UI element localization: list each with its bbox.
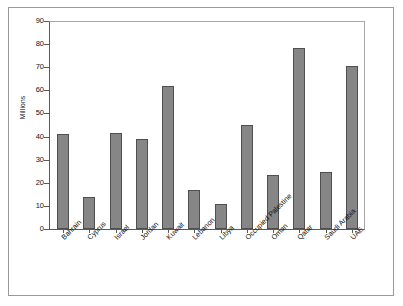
bar-libya[interactable] bbox=[215, 204, 227, 229]
y-axis-tick bbox=[44, 67, 49, 68]
bar-slot bbox=[208, 21, 234, 229]
x-axis-tick bbox=[116, 229, 117, 233]
y-axis-tick-label: 80 bbox=[4, 40, 44, 48]
x-axis-tick bbox=[63, 229, 64, 233]
bars-layer bbox=[50, 21, 365, 229]
bar-slot bbox=[313, 21, 339, 229]
y-axis-tick-label: 20 bbox=[4, 179, 44, 187]
x-axis-tick bbox=[89, 229, 90, 233]
x-axis-tick bbox=[273, 229, 274, 233]
y-axis-tick bbox=[44, 113, 49, 114]
x-axis-labels: BahrainCyprusIsraelJordanKuwaitLebanonLi… bbox=[50, 234, 365, 304]
bar-slot bbox=[50, 21, 76, 229]
bar-slot bbox=[76, 21, 102, 229]
bar-saudi-arabia[interactable] bbox=[320, 172, 332, 229]
y-axis-tick bbox=[44, 44, 49, 45]
x-axis-tick bbox=[247, 229, 248, 233]
bar-slot bbox=[103, 21, 129, 229]
bar-lebanon[interactable] bbox=[188, 190, 200, 229]
bar-chart: Millions BahrainCyprusIsraelJordanKuwait… bbox=[0, 0, 403, 306]
bar-cyprus[interactable] bbox=[83, 197, 95, 229]
bar-qatar[interactable] bbox=[293, 48, 305, 229]
y-axis-tick bbox=[44, 160, 49, 161]
y-axis-tick-label: 60 bbox=[4, 86, 44, 94]
bar-uae[interactable] bbox=[346, 66, 358, 229]
bar-slot bbox=[181, 21, 207, 229]
x-axis-tick bbox=[326, 229, 327, 233]
x-axis-tick bbox=[142, 229, 143, 233]
y-axis-tick-label: 10 bbox=[4, 202, 44, 210]
bar-jordan[interactable] bbox=[136, 139, 148, 229]
y-axis-tick bbox=[44, 206, 49, 207]
y-axis-tick bbox=[44, 137, 49, 138]
x-axis-tick bbox=[194, 229, 195, 233]
bar-slot bbox=[234, 21, 260, 229]
y-axis-tick-label: 30 bbox=[4, 156, 44, 164]
bar-kuwait[interactable] bbox=[162, 86, 174, 229]
bar-slot bbox=[129, 21, 155, 229]
x-axis-tick bbox=[299, 229, 300, 233]
bar-slot bbox=[339, 21, 365, 229]
y-axis-tick-label: 40 bbox=[4, 133, 44, 141]
y-axis-tick bbox=[44, 183, 49, 184]
y-axis-tick bbox=[44, 21, 49, 22]
y-axis-tick-label: 0 bbox=[4, 225, 44, 233]
bar-israel[interactable] bbox=[110, 133, 122, 229]
y-axis-tick bbox=[44, 229, 49, 230]
x-axis-tick bbox=[352, 229, 353, 233]
x-axis-tick bbox=[221, 229, 222, 233]
bar-bahrain[interactable] bbox=[57, 134, 69, 229]
x-axis-tick bbox=[168, 229, 169, 233]
y-axis-tick-label: 50 bbox=[4, 109, 44, 117]
y-axis-tick-label: 70 bbox=[4, 63, 44, 71]
bar-slot bbox=[155, 21, 181, 229]
bar-occupied-palestine[interactable] bbox=[241, 125, 253, 229]
y-axis-tick bbox=[44, 90, 49, 91]
y-axis-tick-label: 90 bbox=[4, 17, 44, 25]
